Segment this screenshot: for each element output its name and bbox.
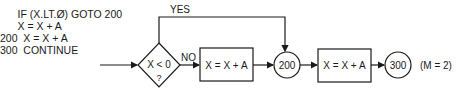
yes-label: YES <box>170 4 190 15</box>
flowchart: YES NO X < 0 ? X = X + A 200 X = X + A 3… <box>0 0 470 91</box>
node-200-label: 200 <box>279 60 296 71</box>
yes-arrow <box>159 17 285 51</box>
box1-label: X = X + A <box>205 60 248 71</box>
decision-question: ? <box>156 73 161 83</box>
no-label: NO <box>181 52 196 63</box>
annotation: (M = 2) <box>420 60 452 71</box>
box2-label: X = X + A <box>323 60 366 71</box>
node-300-label: 300 <box>390 60 407 71</box>
decision-label: X < 0 <box>147 59 171 70</box>
